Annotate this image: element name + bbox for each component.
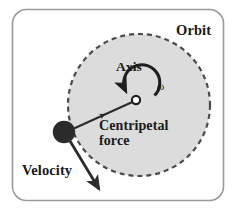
angular-velocity-omega-label: ω	[157, 81, 164, 92]
axis-label: Axis	[116, 60, 142, 74]
centripetal-force-label-line1: Centripetal	[99, 118, 169, 133]
centripetal-force-label: Centripetal force	[99, 118, 169, 149]
figure-container: Orbit Axis ω Centripetal force Velocity	[0, 0, 236, 212]
centripetal-force-label-line2: force	[99, 133, 169, 148]
axis-center-marker	[132, 96, 140, 104]
orbit-label: Orbit	[176, 23, 211, 38]
orbiting-body-dot	[53, 121, 75, 143]
velocity-label: Velocity	[22, 163, 72, 178]
